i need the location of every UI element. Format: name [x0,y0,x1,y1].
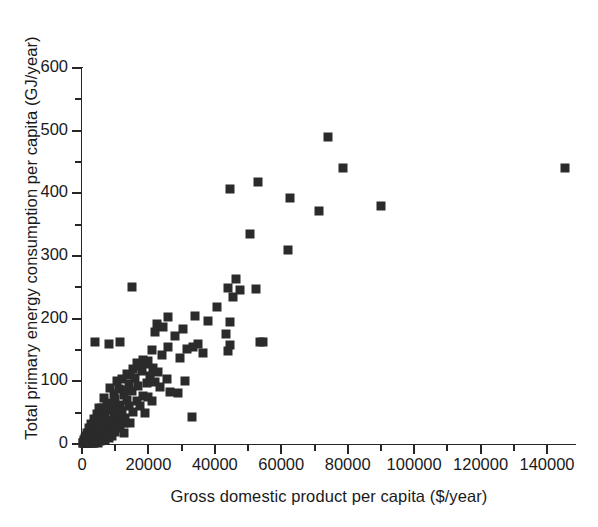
y-tick-label: 300 [14,245,68,264]
data-point [222,330,230,338]
x-tick-minor [513,445,515,451]
x-tick-minor [181,445,183,451]
data-point [164,313,172,321]
data-point [158,351,166,359]
data-point [159,323,167,331]
x-tick-minor [446,445,448,451]
data-point [84,439,92,447]
data-point [224,284,232,292]
data-point [199,349,207,357]
data-point [204,317,212,325]
plot-area [82,68,576,444]
data-point [174,389,182,397]
x-tick-major [214,445,216,454]
data-point [126,419,134,427]
y-tick-minor [75,224,81,226]
y-tick-label: 200 [14,308,68,327]
data-point [128,387,136,395]
data-point [224,347,232,355]
data-point [179,325,187,333]
data-point [166,388,174,396]
y-tick-label: 600 [14,57,68,76]
y-tick-minor [75,286,81,288]
x-tick-major [280,445,282,454]
y-tick-minor [75,349,81,351]
x-tick-minor [314,445,316,451]
data-point [164,343,172,351]
data-point [252,285,260,293]
data-point [188,413,196,421]
data-point [254,178,262,186]
x-tick-minor [380,445,382,451]
y-tick-minor [75,412,81,414]
y-tick-minor [75,161,81,163]
y-tick-major [72,318,81,320]
x-tick-label: 140000 [502,455,592,474]
y-tick-major [72,192,81,194]
data-point [377,202,385,210]
data-point [143,379,151,387]
data-point [91,338,99,346]
data-point [286,194,294,202]
x-axis-title: Gross domestic product per capita ($/yea… [82,487,576,506]
y-tick-minor [75,98,81,100]
data-point [232,275,240,283]
x-tick-minor [247,445,249,451]
data-point [151,328,159,336]
data-point [213,303,221,311]
y-axis-title: Total primary energy consumption per cap… [22,18,50,458]
y-tick-major [72,255,81,257]
data-point [148,346,156,354]
data-point [128,283,136,291]
data-point [141,409,149,417]
scatter-chart-figure: Total primary energy consumption per cap… [0,0,598,527]
data-point [148,397,156,405]
y-tick-major [72,130,81,132]
y-tick-major [72,380,81,382]
data-point [120,429,128,437]
data-point [284,246,292,254]
data-point [226,318,234,326]
data-point [156,383,164,391]
data-point [176,354,184,362]
data-point [105,340,113,348]
data-point [315,207,323,215]
x-tick-major [546,445,548,454]
x-tick-minor [114,445,116,451]
data-point [259,338,267,346]
y-tick-major [72,67,81,69]
y-tick-label: 0 [14,433,68,452]
data-point [171,332,179,340]
data-point [246,230,254,238]
x-tick-major [347,445,349,454]
data-point [183,345,191,353]
data-point [191,312,199,320]
data-point [226,185,234,193]
data-point [339,164,347,172]
data-point [129,408,137,416]
x-tick-major [413,445,415,454]
data-point [181,377,189,385]
data-point [561,164,569,172]
data-point [324,133,332,141]
x-tick-major [147,445,149,454]
y-tick-label: 400 [14,182,68,201]
y-tick-label: 100 [14,370,68,389]
y-tick-label: 500 [14,120,68,139]
data-point [154,368,162,376]
x-tick-major [480,445,482,454]
data-point [116,338,124,346]
data-point [229,293,237,301]
